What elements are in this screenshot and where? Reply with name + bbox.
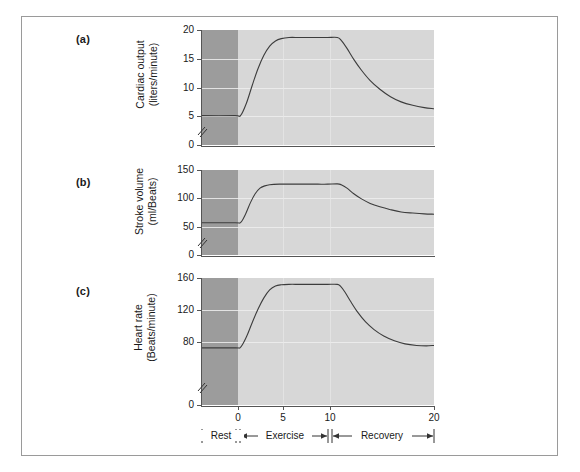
panel-a-plot-area [202, 30, 434, 145]
panel-a-ytick-15 [197, 59, 201, 60]
panel-letter-c: (c) [76, 285, 90, 297]
xtick-0 [238, 406, 239, 410]
panel-c-ytick-80 [197, 342, 201, 343]
panel-c-yticklabel-0: 0 [163, 399, 194, 410]
panel-letter-a: (a) [76, 33, 90, 45]
panel-c-ytick-160 [197, 278, 201, 279]
panel-c-y-axis-title: Heart rate (Beats/minute) [132, 258, 157, 398]
panel-a-ytick-0 [197, 145, 201, 146]
panel-b-plot [202, 170, 434, 255]
panel-a-plot [202, 30, 434, 145]
figure-root: (a) (b) (c) Cardiac output (liters/minut… [0, 0, 580, 472]
phase-label-rest: Rest [198, 430, 244, 441]
panel-a-yticklabel-20: 20 [165, 24, 194, 35]
panel-b-x-axis [201, 256, 435, 257]
panel-a-ytick-10 [197, 88, 201, 89]
panel-b-yticklabel-150: 150 [163, 164, 194, 175]
panel-b-axis-break-icon [196, 236, 208, 250]
xticklabel-10: 10 [318, 412, 342, 423]
panel-b-yticklabel-100: 100 [163, 192, 194, 203]
panel-c-y-title-line1: Heart rate [132, 304, 144, 351]
panel-a-ytick-20 [197, 30, 201, 31]
panel-c-x-axis [201, 406, 435, 407]
panel-a-y-axis-title: Cardiac output (liters/minute) [134, 5, 159, 145]
panel-a-ytick-5 [197, 116, 201, 117]
panel-c-y-title-line2: (Beats/minute) [144, 293, 156, 361]
xtick-5 [283, 406, 284, 410]
panel-b-ytick-0 [197, 255, 201, 256]
panel-c-yticklabel-120: 120 [163, 304, 194, 315]
panel-b-y-axis-title: Stroke volume (ml/Beats) [133, 134, 158, 269]
panel-a-x-axis [201, 146, 435, 147]
xticklabel-5: 5 [271, 412, 295, 423]
panel-c-axis-break-icon [196, 381, 208, 395]
panel-a-yticklabel-0: 0 [165, 139, 194, 150]
panel-b-yticklabel-50: 50 [163, 221, 194, 232]
panel-c-curve [202, 278, 434, 405]
panel-b-plot-area [202, 170, 434, 255]
panel-a-yticklabel-5: 5 [165, 110, 194, 121]
panel-a-curve [202, 30, 434, 145]
panel-c-ytick-120 [197, 310, 201, 311]
xtick-10 [330, 406, 331, 410]
phase-label-recovery: Recovery [352, 430, 412, 441]
panel-b-y-title-line2: (ml/Beats) [146, 178, 158, 226]
panel-b-ytick-150 [197, 170, 201, 171]
panel-a-axis-break-icon [196, 125, 208, 139]
panel-c-ytick-0 [197, 405, 201, 406]
xticklabel-20: 20 [422, 412, 446, 423]
panel-a-yticklabel-10: 10 [165, 82, 194, 93]
xtick-20 [434, 406, 435, 410]
panel-b-curve [202, 170, 434, 255]
panel-letter-b: (b) [76, 176, 91, 188]
panel-a-yticklabel-15: 15 [165, 53, 194, 64]
panel-b-yticklabel-0: 0 [163, 249, 194, 260]
panel-a-y-title-line1: Cardiac output [134, 40, 146, 108]
panel-b-y-title-line1: Stroke volume [133, 168, 145, 235]
panel-a-y-title-line2: (liters/minute) [146, 43, 158, 107]
panel-c-yticklabel-80: 80 [163, 336, 194, 347]
phase-label-exercise: Exercise [258, 430, 312, 441]
panel-b-ytick-50 [197, 227, 201, 228]
xticklabel-0: 0 [226, 412, 250, 423]
panel-c-plot [202, 278, 434, 405]
panel-c-plot-area [202, 278, 434, 405]
panel-c-yticklabel-160: 160 [163, 272, 194, 283]
panel-b-ytick-100 [197, 198, 201, 199]
